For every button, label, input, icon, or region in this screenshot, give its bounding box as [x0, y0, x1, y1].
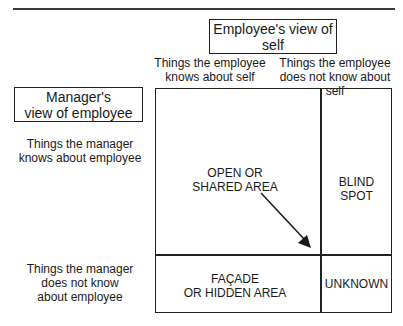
- expand-arrow-icon: [0, 0, 403, 326]
